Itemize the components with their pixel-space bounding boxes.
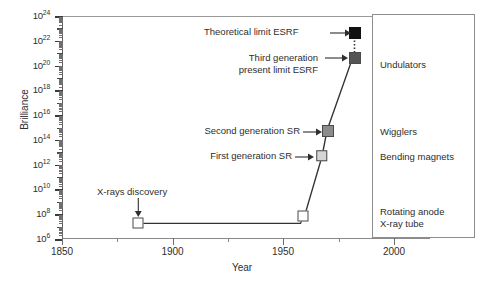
- y-axis-sublog-hash: [59, 157, 63, 158]
- y-axis-sublog-hash: [59, 116, 63, 117]
- y-axis-sublog-hash: [59, 21, 63, 22]
- legend-item-undulators: Undulators: [380, 59, 426, 71]
- x-tick-label-1850: 1850: [51, 246, 73, 257]
- y-tick-label-24: 1024: [4, 10, 50, 21]
- y-axis-sublog-hash: [59, 32, 63, 33]
- y-axis-sublog-hash: [59, 57, 63, 58]
- y-axis-sublog-hash: [59, 47, 63, 48]
- annotation-third-generation-line2: present limit ESRF: [178, 64, 318, 76]
- y-axis-sublog-hash: [59, 95, 63, 96]
- y-axis-sublog-hash: [59, 170, 63, 171]
- y-axis-sublog-hash: [59, 25, 63, 26]
- y-axis-sublog-hash: [59, 186, 63, 187]
- y-axis-sublog-hash: [59, 153, 63, 154]
- y-axis-sublog-hash: [59, 17, 63, 18]
- arrow-first-generation-icon: [295, 150, 315, 164]
- brilliance-vs-year-chart: 1024 1022 1020 1018 1016 1014 1012 1010 …: [0, 0, 496, 281]
- y-axis-sublog-hash: [59, 131, 63, 132]
- y-axis-sublog-hash: [59, 82, 63, 83]
- y-axis-sublog-hash: [59, 120, 63, 121]
- x-axis-title: Year: [182, 262, 302, 273]
- y-axis-sublog-hash: [59, 171, 63, 172]
- y-axis-sublog-hash: [59, 49, 63, 50]
- y-axis-sublog-hash: [59, 178, 63, 179]
- x-tick-major-1850: [62, 238, 63, 245]
- y-axis-sublog-hash: [59, 124, 63, 125]
- y-axis-sublog-hash: [59, 202, 63, 203]
- y-tick-label-12: 1012: [4, 159, 50, 170]
- x-tick-major-1950: [283, 238, 284, 245]
- y-axis-sublog-hash: [59, 20, 63, 21]
- arrow-theoretical-limit-icon: [330, 26, 352, 40]
- marker-rotating-anode[interactable]: [298, 211, 309, 222]
- y-axis-sublog-hash: [59, 37, 63, 38]
- y-axis-sublog-hash: [59, 230, 63, 231]
- y-axis-sublog-hash: [59, 146, 63, 147]
- y-axis-sublog-hash: [59, 87, 63, 88]
- y-axis-sublog-hash: [59, 60, 63, 61]
- y-axis-sublog-hash: [59, 62, 63, 63]
- legend-item-rotating-anode-line1: Rotating anode: [380, 206, 444, 218]
- y-axis-sublog-hash: [59, 134, 63, 135]
- y-axis-sublog-hash: [59, 227, 63, 228]
- marker-first-generation-sr[interactable]: [316, 150, 328, 162]
- y-axis-sublog-hash: [59, 165, 63, 166]
- legend-item-rotating-anode-line2: X-ray tube: [380, 218, 424, 230]
- marker-third-generation-esrf[interactable]: [349, 52, 361, 64]
- y-axis-sublog-hash: [59, 194, 63, 195]
- y-axis-sublog-hash: [59, 79, 63, 80]
- x-tick-minor-1875: [117, 238, 118, 242]
- y-tick-label-8: 108: [4, 208, 50, 219]
- legend-item-wigglers: Wigglers: [380, 126, 417, 138]
- y-axis-sublog-hash: [59, 159, 63, 160]
- y-axis-sublog-hash: [59, 208, 63, 209]
- y-axis-sublog-hash: [59, 145, 63, 146]
- y-axis-sublog-hash: [59, 29, 63, 30]
- y-axis-sublog-hash: [59, 223, 63, 224]
- legend-item-bending-magnets: Bending magnets: [380, 151, 454, 163]
- y-axis-sublog-hash: [59, 22, 63, 23]
- y-axis-sublog-hash: [59, 190, 63, 191]
- y-axis-title: Brilliance: [19, 70, 30, 150]
- y-axis-sublog-hash: [59, 111, 63, 112]
- y-axis-sublog-hash: [59, 119, 63, 120]
- x-tick-label-1900: 1900: [161, 246, 183, 257]
- y-axis-sublog-hash: [59, 46, 63, 47]
- y-axis-sublog-hash: [59, 41, 63, 42]
- y-axis-sublog-hash: [59, 109, 63, 110]
- y-axis-sublog-hash: [59, 132, 63, 133]
- y-axis-sublog-hash: [59, 128, 63, 129]
- y-axis-sublog-hash: [59, 232, 63, 233]
- annotation-theoretical-limit: Theoretical limit ESRF: [204, 26, 299, 38]
- y-axis-sublog-hash: [59, 219, 63, 220]
- y-axis-sublog-hash: [59, 91, 63, 92]
- y-axis-sublog-hash: [59, 72, 63, 73]
- y-axis-sublog-hash: [59, 70, 63, 71]
- annotation-third-generation-line1: Third generation: [178, 52, 318, 64]
- y-axis-sublog-hash: [59, 182, 63, 183]
- y-axis-sublog-hash: [59, 207, 63, 208]
- y-axis-sublog-hash: [59, 168, 63, 169]
- marker-xrays-discovery[interactable]: [133, 218, 144, 229]
- annotation-second-generation: Second generation SR: [160, 125, 300, 137]
- y-axis-sublog-hash: [59, 235, 63, 236]
- y-axis-sublog-hash: [59, 106, 63, 107]
- y-axis-sublog-hash: [59, 196, 63, 197]
- arrow-second-generation-icon: [303, 125, 323, 139]
- y-axis-sublog-hash: [59, 108, 63, 109]
- plot-top-rule: [62, 16, 372, 17]
- x-tick-major-1900: [173, 238, 174, 245]
- y-axis-sublog-hash: [59, 35, 63, 36]
- x-tick-major-2000: [394, 238, 395, 245]
- y-axis-sublog-hash: [59, 97, 63, 98]
- y-axis-sublog-hash: [59, 210, 63, 211]
- annotation-first-generation: First generation SR: [160, 150, 292, 162]
- marker-second-generation-sr[interactable]: [322, 125, 334, 137]
- y-axis-sublog-hash: [59, 69, 63, 70]
- y-axis-sublog-hash: [59, 233, 63, 234]
- arrow-third-generation-icon: [325, 51, 349, 65]
- y-tick-label-10: 1010: [4, 183, 50, 194]
- x-tick-minor-1975: [339, 238, 340, 242]
- y-tick-label-22: 1022: [4, 35, 50, 46]
- y-axis-sublog-hash: [59, 161, 63, 162]
